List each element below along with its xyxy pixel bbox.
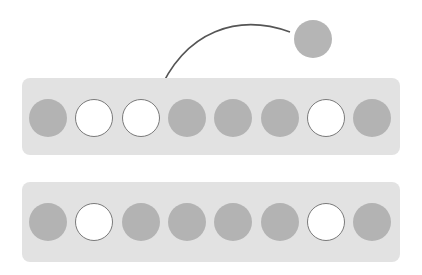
bottom-row-slot-7-empty-circle [307,203,345,241]
top-row-slot-8-filled-circle [353,99,391,137]
floating-circle [294,20,332,58]
bottom-row-slot-4-filled-circle [168,203,206,241]
bottom-row-slot-5-filled-circle [214,203,252,241]
top-row-slot-6-filled-circle [261,99,299,137]
bottom-row-slot-1-filled-circle [29,203,67,241]
bottom-row-slot-6-filled-circle [261,203,299,241]
bottom-row-slot-3-filled-circle [122,203,160,241]
top-row-slot-5-filled-circle [214,99,252,137]
bottom-row-slot-8-filled-circle [353,203,391,241]
top-row-slot-7-empty-circle [307,99,345,137]
top-row-slot-1-filled-circle [29,99,67,137]
top-row-slot-4-filled-circle [168,99,206,137]
top-row-slot-3-empty-circle [122,99,160,137]
